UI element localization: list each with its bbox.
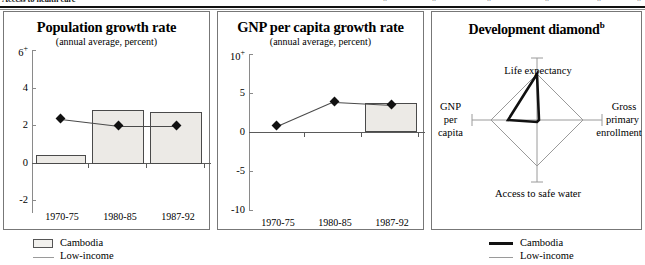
diamond-axis-label-right-line2: primary xyxy=(602,113,643,126)
population-x-tick-1 xyxy=(88,164,89,168)
thin-line-swatch-icon xyxy=(489,257,513,258)
gnp-y-label-5: 5 xyxy=(218,87,245,98)
thick-line-swatch-icon xyxy=(489,242,513,245)
gnp-x-label-1970-75: 1970-75 xyxy=(251,217,305,228)
population-y-label-6: 6+ xyxy=(4,44,28,58)
population-x-label-1980-85: 1980-85 xyxy=(93,211,147,222)
legend-right-label-cambodia: Cambodia xyxy=(520,237,563,248)
cut-off-table-row: Access to health care .. .. .. .. .. .. xyxy=(0,0,645,11)
bar-swatch-icon xyxy=(33,239,53,248)
table-cell-dots-6: .. xyxy=(637,0,641,3)
population-x-label-1987-92: 1987-92 xyxy=(151,211,205,222)
population-y-tick-4 xyxy=(32,88,36,89)
population-bar-1980-85 xyxy=(92,110,144,164)
gnp-x-tick-3 xyxy=(418,133,419,137)
table-cell-dots-2: .. xyxy=(432,0,436,3)
gnp-zero-baseline xyxy=(249,132,425,133)
population-chart-subtitle: (annual average, percent) xyxy=(4,36,209,47)
gnp-y-label-10: 10+ xyxy=(218,48,245,62)
gnp-y-tick-neg5 xyxy=(249,171,253,172)
gnp-x-label-1980-85: 1980-85 xyxy=(308,217,362,228)
table-cell-dots-3: .. xyxy=(487,0,491,3)
population-y-label-0: 0 xyxy=(4,157,28,168)
table-bottom-rule-secondary xyxy=(0,9,645,10)
gnp-y-tick-5 xyxy=(249,93,253,94)
diamond-plot-area: Life expectancy Access to safe water GNP… xyxy=(432,12,643,231)
population-chart-title: Population growth rate xyxy=(4,19,209,36)
diamond-axis-label-right-line3: enrollment xyxy=(595,126,643,139)
figure-container: Access to health care .. .. .. .. .. .. … xyxy=(0,0,645,265)
gnp-chart-title: GNP per capita growth rate xyxy=(218,19,423,36)
table-cell-dots-1: .. xyxy=(383,0,387,3)
population-y-axis xyxy=(32,50,33,213)
population-y-tick-neg2 xyxy=(32,200,36,201)
panel-development-diamond: Development diamondb Life expectancy Acc… xyxy=(431,11,642,230)
diamond-axis-label-top: Life expectancy xyxy=(468,64,608,77)
population-y-tick-2 xyxy=(32,125,36,126)
gnp-x-tick-1 xyxy=(304,133,305,137)
population-line-segment-2 xyxy=(119,126,177,127)
table-cell-dots-5: .. xyxy=(597,0,601,3)
legend-right-label-low-income: Low-income xyxy=(520,250,574,261)
population-y-label-neg2: -2 xyxy=(4,194,28,205)
legend-left-label-low-income: Low-income xyxy=(60,250,114,261)
diamond-axis-label-left-line3: capita xyxy=(432,126,469,139)
gnp-y-tick-neg10 xyxy=(249,210,253,211)
legend-left-label-cambodia: Cambodia xyxy=(60,237,103,248)
panel-gnp-per-capita-growth-rate: GNP per capita growth rate (annual avera… xyxy=(217,11,424,230)
thin-line-swatch-icon xyxy=(33,257,54,258)
gnp-y-label-0: 0 xyxy=(218,126,245,137)
gnp-chart-subtitle: (annual average, percent) xyxy=(218,36,423,47)
gnp-x-tick-2 xyxy=(361,133,362,137)
diamond-axis-label-left-line2: per xyxy=(432,113,469,126)
gnp-marker-1980-85 xyxy=(330,97,340,107)
diamond-axis-label-right-line1: Gross xyxy=(605,100,643,113)
gnp-y-tick-10 xyxy=(249,54,253,55)
population-y-label-2: 2 xyxy=(4,119,28,130)
diamond-axis-label-left-line1: GNP xyxy=(432,100,469,113)
population-marker-1970-75 xyxy=(56,114,66,124)
population-y-tick-6 xyxy=(32,50,36,51)
table-bottom-rule xyxy=(0,6,645,8)
panel-population-growth-rate: Population growth rate (annual average, … xyxy=(3,11,210,230)
population-x-tick-3 xyxy=(204,164,205,168)
gnp-marker-1970-75 xyxy=(272,121,282,131)
gnp-x-label-1987-92: 1987-92 xyxy=(365,217,419,228)
population-bar-1970-75 xyxy=(36,155,86,164)
gnp-line-segment-1 xyxy=(277,102,332,127)
population-y-label-4: 4 xyxy=(4,82,28,93)
gnp-y-label-neg5: -5 xyxy=(218,165,245,176)
population-x-tick-2 xyxy=(146,164,147,168)
table-row-label: Access to health care xyxy=(2,0,76,4)
table-cell-dots-4: .. xyxy=(545,0,549,3)
population-x-label-1970-75: 1970-75 xyxy=(35,211,89,222)
diamond-axis-label-bottom: Access to safe water xyxy=(465,187,611,200)
gnp-y-label-neg10: -10 xyxy=(218,204,245,215)
